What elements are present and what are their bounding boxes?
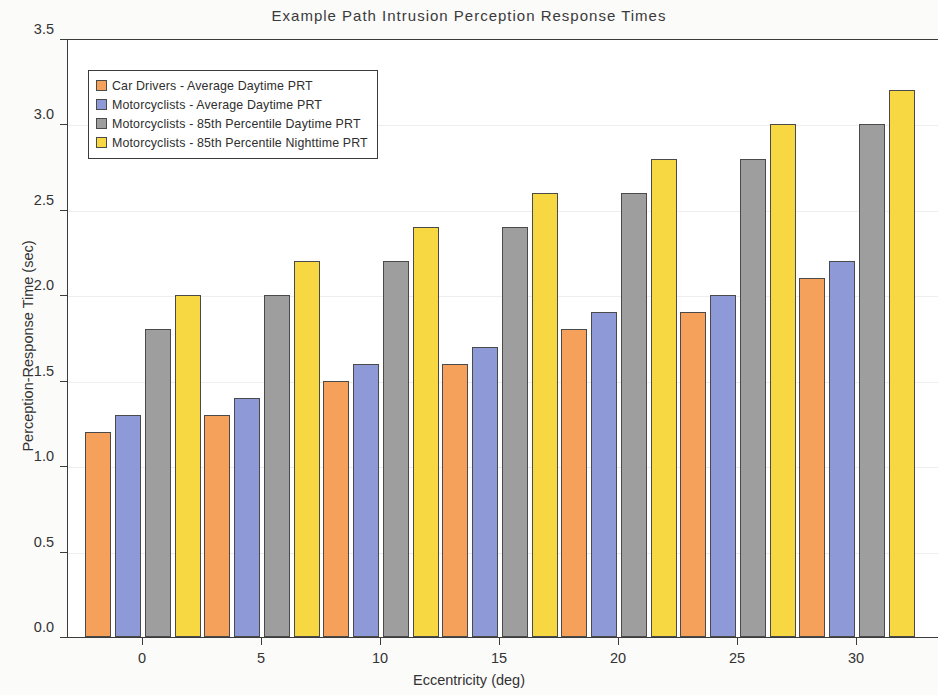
- bar: [234, 398, 260, 637]
- y-axis-tick: [60, 210, 67, 211]
- bar: [115, 415, 141, 637]
- x-axis-tick-label: 25: [707, 650, 767, 666]
- y-axis-title: Perception-Response Time (sec): [20, 86, 36, 606]
- y-axis-tick-label: 0.0: [6, 619, 54, 635]
- bar: [353, 364, 379, 637]
- bar: [175, 295, 201, 637]
- bar: [323, 381, 349, 637]
- y-axis-tick: [60, 124, 67, 125]
- bar: [591, 312, 617, 637]
- x-axis-tick-label: 30: [826, 650, 886, 666]
- x-axis-tick-label: 10: [350, 650, 410, 666]
- bar: [502, 227, 528, 637]
- legend-item: Car Drivers - Average Daytime PRT: [96, 76, 368, 95]
- legend: Car Drivers - Average Daytime PRTMotorcy…: [88, 70, 378, 159]
- y-axis-tick: [60, 552, 67, 553]
- chart-title: Example Path Intrusion Perception Respon…: [0, 7, 938, 24]
- y-axis-tick: [60, 381, 67, 382]
- x-axis-tick: [856, 637, 857, 645]
- x-axis-tick: [499, 637, 500, 645]
- bar: [651, 159, 677, 637]
- x-axis-tick-label: 15: [469, 650, 529, 666]
- bar: [561, 329, 587, 637]
- legend-item: Motorcyclists - 85th Percentile Daytime …: [96, 114, 368, 133]
- bar: [859, 124, 885, 637]
- bar: [532, 193, 558, 637]
- bar: [770, 124, 796, 637]
- x-axis-tick-label: 0: [112, 650, 172, 666]
- bar: [799, 278, 825, 637]
- bar: [472, 347, 498, 637]
- x-axis-title: Eccentricity (deg): [0, 672, 938, 688]
- legend-item-label: Motorcyclists - Average Daytime PRT: [112, 98, 322, 112]
- gridline: [68, 211, 938, 212]
- x-axis-tick: [380, 637, 381, 645]
- bar: [680, 312, 706, 637]
- legend-item: Motorcyclists - Average Daytime PRT: [96, 95, 368, 114]
- legend-swatch-icon: [96, 99, 107, 110]
- y-axis-tick: [60, 466, 67, 467]
- bar: [710, 295, 736, 637]
- chart-figure: Example Path Intrusion Perception Respon…: [0, 0, 938, 695]
- bar: [442, 364, 468, 637]
- legend-item-label: Car Drivers - Average Daytime PRT: [112, 79, 313, 93]
- x-axis-tick: [261, 637, 262, 645]
- y-axis-tick: [60, 39, 67, 40]
- legend-item-label: Motorcyclists - 85th Percentile Nighttim…: [112, 136, 368, 150]
- legend-swatch-icon: [96, 137, 107, 148]
- x-axis-tick-label: 20: [588, 650, 648, 666]
- bar: [294, 261, 320, 637]
- legend-swatch-icon: [96, 80, 107, 91]
- bar: [829, 261, 855, 637]
- x-axis-tick: [618, 637, 619, 645]
- bar: [264, 295, 290, 637]
- x-axis-line: [67, 637, 938, 638]
- legend-item-label: Motorcyclists - 85th Percentile Daytime …: [112, 117, 361, 131]
- x-axis-tick-label: 5: [231, 650, 291, 666]
- y-axis-tick: [60, 637, 67, 638]
- bar: [383, 261, 409, 637]
- bar: [413, 227, 439, 637]
- legend-item: Motorcyclists - 85th Percentile Nighttim…: [96, 133, 368, 152]
- bar: [85, 432, 111, 637]
- bar: [621, 193, 647, 637]
- bar: [204, 415, 230, 637]
- bar: [740, 159, 766, 637]
- x-axis-tick: [737, 637, 738, 645]
- bar: [889, 90, 915, 637]
- legend-swatch-icon: [96, 118, 107, 129]
- y-axis-tick: [60, 295, 67, 296]
- bar: [145, 329, 171, 637]
- x-axis-tick: [142, 637, 143, 645]
